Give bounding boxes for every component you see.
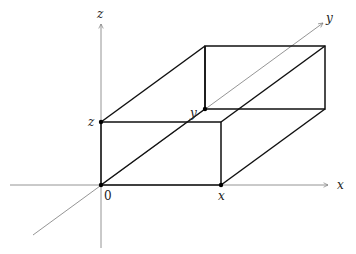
origin-dot [99, 183, 103, 187]
z-point-label: z [87, 115, 95, 129]
coordinate-box-diagram: z x y 0 x y z [0, 0, 356, 254]
x-point-label: x [218, 189, 225, 203]
box-front-face [101, 122, 221, 185]
labels: z x y 0 x y z [87, 7, 344, 203]
z-point-dot [99, 120, 103, 124]
box-edge-origin-y [101, 109, 205, 185]
box-edge-xz-top [221, 46, 325, 122]
points [99, 107, 223, 187]
y-point-dot [203, 107, 207, 111]
x-axis-label: x [337, 178, 344, 192]
y-axis-label: y [325, 11, 333, 25]
z-axis-label: z [96, 7, 104, 21]
origin-label: 0 [104, 189, 112, 203]
rectangular-box [101, 46, 325, 185]
y-point-label: y [189, 106, 197, 120]
box-edge-x-bottom [221, 109, 325, 185]
x-point-dot [219, 183, 223, 187]
box-back-face [205, 46, 325, 109]
